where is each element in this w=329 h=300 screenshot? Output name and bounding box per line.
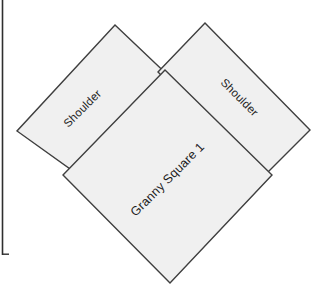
diagram-canvas: Shoulder Shoulder Granny Square 1: [0, 0, 329, 300]
granny-square-diagram: Shoulder Shoulder Granny Square 1: [0, 0, 329, 300]
